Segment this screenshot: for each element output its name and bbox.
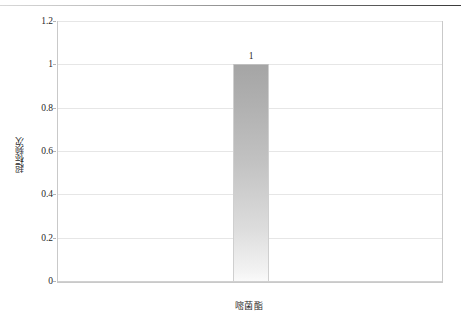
y-axis-tick-mark (53, 21, 56, 22)
bar[interactable] (233, 64, 269, 281)
y-axis-tick-mark (53, 151, 56, 152)
y-axis-tick-mark (53, 64, 56, 65)
x-axis-tick-labels: 嘧菌酯 (57, 289, 443, 309)
y-axis-tick-mark (53, 108, 56, 109)
gridline (58, 281, 442, 282)
y-axis-tick-label: 0.2 (23, 233, 53, 243)
bar-value-label: 1 (249, 51, 254, 61)
y-axis-tick-mark (53, 238, 56, 239)
y-axis-tick-label: 1 (23, 59, 53, 69)
bar-chart: 超标频次 00.20.40.60.811.2 1 嘧菌酯 (0, 6, 461, 318)
y-axis-tick-mark (53, 281, 56, 282)
plot-area: 1 (57, 21, 443, 283)
y-axis-tick-label: 0.8 (23, 103, 53, 113)
gridline (58, 21, 442, 22)
x-axis-tick-label: 嘧菌酯 (235, 299, 264, 312)
y-axis-tick-labels: 00.20.40.60.811.2 (20, 21, 53, 283)
y-axis-tick-label: 0 (23, 276, 53, 286)
y-axis-tick-label: 1.2 (23, 16, 53, 26)
y-axis-tick-mark (53, 194, 56, 195)
y-axis-tick-label: 0.6 (23, 146, 53, 156)
bar-series: 1 (59, 23, 441, 281)
y-axis-tick-label: 0.4 (23, 189, 53, 199)
chart-page: 超标频次 00.20.40.60.811.2 1 嘧菌酯 (0, 0, 461, 318)
